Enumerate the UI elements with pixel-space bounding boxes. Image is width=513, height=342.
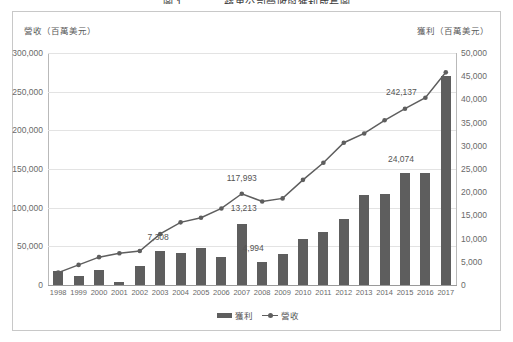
data-label-2007: 117,993 [227,173,257,183]
left-tick-label: 50,000 [17,241,43,251]
x-axis-line [48,285,457,286]
revenue-marker-2004 [178,220,183,225]
x-label-2011: 2011 [315,288,331,297]
revenue-marker-2008 [260,199,265,204]
x-label-2017: 2017 [437,288,454,297]
data-label-2015: 24,074 [388,154,414,164]
x-label-2007: 2007 [233,288,250,297]
x-label-2006: 2006 [213,288,230,297]
chart-legend: 獲利 營收 [13,309,502,321]
left-tick-label: 300,000 [12,48,43,58]
chart-frame: 營收（百萬美元） 獲利（百萬美元） 300,000250,000200,0001… [12,11,501,331]
right-tick-label: 45,000 [461,71,487,81]
x-label-2010: 2010 [295,288,312,297]
x-label-2002: 2002 [131,288,148,297]
revenue-marker-2007 [240,191,245,196]
x-label-1999: 1999 [70,288,87,297]
revenue-marker-2001 [117,251,122,256]
line-swatch-icon [262,313,278,318]
x-label-2012: 2012 [335,288,352,297]
revenue-marker-2013 [362,131,367,136]
x-label-1998: 1998 [50,288,67,297]
revenue-marker-1998 [56,270,61,275]
plot-area: 300,000250,000200,000150,000100,00050,00… [48,53,456,285]
left-axis-title: 營收（百萬美元） [24,24,96,36]
revenue-marker-2012 [342,140,347,145]
right-axis-title: 獲利（百萬美元） [417,24,489,36]
revenue-marker-2016 [423,95,428,100]
right-tick-label: 15,000 [461,210,487,220]
left-tick-label: 100,000 [12,203,43,213]
x-label-2001: 2001 [111,288,128,297]
revenue-marker-2014 [382,118,387,123]
legend-label-revenue: 營收 [281,309,299,321]
x-label-2000: 2000 [91,288,108,297]
revenue-marker-2011 [321,161,326,166]
revenue-marker-2005 [199,215,204,220]
right-tick-label: 0 [461,280,466,290]
revenue-marker-2002 [138,249,143,254]
figure-caption: 圖 1 蘋果公司營收與獲利成長圖 [0,0,513,4]
x-label-2004: 2004 [172,288,189,297]
x-label-2015: 2015 [397,288,414,297]
revenue-marker-2017 [444,70,449,75]
right-tick-label: 5,000 [461,257,482,267]
data-label-2007: 13,213 [231,203,257,213]
left-tick-label: 150,000 [12,164,43,174]
right-tick-label: 40,000 [461,94,487,104]
x-label-2009: 2009 [274,288,291,297]
revenue-marker-2009 [280,196,285,201]
right-tick-label: 35,000 [461,118,487,128]
legend-item-profit[interactable]: 獲利 [217,309,253,321]
revenue-marker-2015 [403,106,408,111]
right-tick-label: 20,000 [461,187,487,197]
x-label-2005: 2005 [193,288,210,297]
revenue-marker-1999 [76,263,81,268]
bar-swatch-icon [217,313,232,318]
legend-label-profit: 獲利 [235,309,253,321]
left-tick-label: 200,000 [12,125,43,135]
revenue-marker-2000 [97,255,102,260]
x-label-2013: 2013 [356,288,373,297]
revenue-marker-2006 [219,206,224,211]
x-label-2003: 2003 [152,288,169,297]
x-label-2008: 2008 [254,288,271,297]
right-tick-label: 10,000 [461,234,487,244]
legend-item-revenue[interactable]: 營收 [262,309,299,321]
data-label-2003: 7,308 [148,232,169,242]
left-tick-label: 250,000 [12,87,43,97]
right-tick-label: 25,000 [461,164,487,174]
x-label-2016: 2016 [417,288,434,297]
left-tick-label: 0 [38,280,43,290]
x-label-2014: 2014 [376,288,393,297]
data-label-2008: 4,994 [243,243,264,253]
x-axis-labels: 1998199920002001200220032004200520062007… [48,288,456,302]
right-tick-label: 50,000 [461,48,487,58]
revenue-marker-2010 [301,178,306,183]
chart-screenshot: 圖 1 蘋果公司營收與獲利成長圖 營收（百萬美元） 獲利（百萬美元） 300,0… [0,0,513,342]
data-label-2016: 242,137 [386,87,417,97]
right-axis-line [456,53,457,286]
right-tick-label: 30,000 [461,141,487,151]
